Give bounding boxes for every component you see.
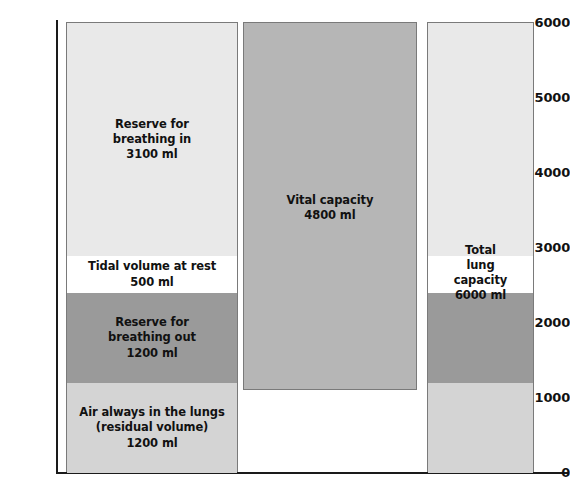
segment-label-residual: Air always in the lungs (residual volume…	[79, 405, 224, 451]
segment-label-reserve-out: Reserve for breathing out 1200 ml	[108, 315, 196, 361]
segment-inspiratory-reserve-volume: Reserve for breathing in 3100 ml	[67, 23, 237, 256]
segment-tlc-expiratory-reserve	[428, 293, 533, 383]
segment-residual-volume: Air always in the lungs (residual volume…	[67, 383, 237, 473]
lung-volumes-chart: 6000 5000 4000 3000 2000 1000 0 Reserve …	[0, 0, 570, 495]
segment-tlc-tidal	[428, 256, 533, 293]
segment-vital-capacity: Vital capacity 4800 ml	[244, 193, 416, 223]
segment-label-reserve-in: Reserve for breathing in 3100 ml	[113, 117, 191, 163]
segment-label-vital: Vital capacity 4800 ml	[287, 193, 374, 223]
segment-tidal-volume: Tidal volume at rest 500 ml	[67, 256, 237, 293]
bar-total-lung-capacity: Total lung capacity 6000 ml	[427, 22, 534, 472]
segment-tlc-inspiratory-reserve	[428, 23, 533, 256]
bar-lung-volumes: Reserve for breathing in 3100 ml Tidal v…	[66, 22, 238, 472]
segment-expiratory-reserve-volume: Reserve for breathing out 1200 ml	[67, 293, 237, 383]
segment-tlc-residual	[428, 383, 533, 473]
segment-label-tidal: Tidal volume at rest 500 ml	[88, 259, 216, 289]
y-axis-line	[56, 20, 58, 474]
bar-vital-capacity: Vital capacity 4800 ml	[243, 22, 417, 390]
